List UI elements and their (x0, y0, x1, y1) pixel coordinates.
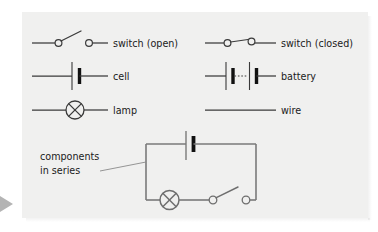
figure-root: switch (open) switch (closed) cell (0, 0, 378, 232)
circuit-switch-contact-terminal (242, 196, 250, 204)
circuit-symbols-diagram: switch (open) switch (closed) cell (0, 0, 378, 232)
series-circuit (146, 131, 256, 210)
legend-label-lamp: lamp (113, 105, 137, 116)
legend-symbol-battery (205, 62, 276, 90)
legend-label-cell: cell (113, 71, 130, 82)
legend-symbol-switch-closed (205, 38, 276, 46)
annotation-line-2: in series (40, 165, 80, 176)
circuit-switch-lever (216, 187, 238, 198)
annotation-line-1: components (40, 151, 99, 162)
legend-label-wire: wire (281, 105, 301, 116)
legend-symbol-cell (32, 62, 108, 90)
switch-closed-lever (231, 40, 249, 43)
legend-label-battery: battery (281, 71, 316, 82)
legend-label-switch-open: switch (open) (113, 38, 178, 49)
switch-open-lever (61, 31, 81, 41)
switch-closed-contact-terminal (248, 38, 255, 45)
annotation-leader-line (100, 162, 146, 171)
legend-label-switch-closed: switch (closed) (281, 38, 353, 49)
switch-open-contact-terminal (86, 40, 93, 47)
legend-symbol-lamp (32, 101, 108, 119)
switch-closed-pivot-terminal (224, 40, 231, 47)
legend-symbol-switch-open (32, 31, 108, 46)
